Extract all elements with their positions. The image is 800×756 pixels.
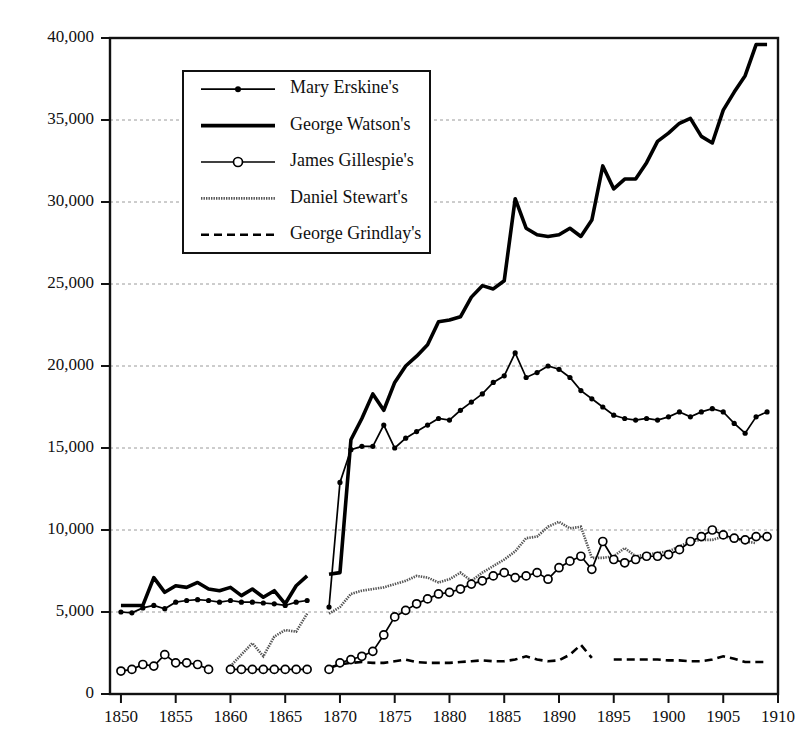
data-point [730, 534, 738, 542]
data-point [172, 659, 180, 667]
x-tick-label: 1880 [432, 707, 466, 726]
series-line [329, 353, 767, 607]
series-line [121, 600, 307, 613]
data-point [534, 370, 539, 375]
x-tick-label: 1875 [378, 707, 412, 726]
x-tick-label: 1895 [597, 707, 631, 726]
data-point [599, 537, 607, 545]
data-point [380, 631, 388, 639]
data-point [414, 429, 419, 434]
data-point [764, 409, 769, 414]
data-point [555, 564, 563, 572]
data-point [467, 580, 475, 588]
data-point [305, 598, 310, 603]
data-point [381, 422, 386, 427]
data-point [699, 409, 704, 414]
data-point [205, 665, 213, 673]
data-point [173, 600, 178, 605]
chart-legend: Mary Erskine'sGeorge Watson'sJames Gille… [183, 71, 430, 253]
data-point [436, 416, 441, 421]
data-point [611, 413, 616, 418]
data-point [358, 652, 366, 660]
data-point [250, 600, 255, 605]
data-point [270, 665, 278, 673]
series-daniel-stewart-s [230, 522, 756, 666]
x-tick-label: 1865 [268, 707, 302, 726]
data-point [228, 598, 233, 603]
data-point [425, 422, 430, 427]
data-point [721, 409, 726, 414]
data-point [391, 613, 399, 621]
data-point [666, 414, 671, 419]
data-point [753, 414, 758, 419]
y-tick-label: 25,000 [47, 273, 94, 292]
series-george-grindlay-s [329, 645, 767, 668]
y-axis-ticks [101, 38, 110, 694]
data-point [292, 665, 300, 673]
data-point [763, 533, 771, 541]
data-point [226, 665, 234, 673]
data-point [139, 660, 147, 668]
data-point [478, 577, 486, 585]
y-tick-label: 35,000 [47, 109, 94, 128]
data-point [336, 659, 344, 667]
data-point [456, 585, 464, 593]
data-point [259, 665, 267, 673]
data-point [261, 600, 266, 605]
data-point [610, 556, 618, 564]
data-point [589, 396, 594, 401]
data-point [370, 444, 375, 449]
data-point [588, 565, 596, 573]
x-tick-label: 1855 [159, 707, 193, 726]
x-tick-label: 1890 [542, 707, 576, 726]
data-point [622, 416, 627, 421]
data-point [632, 556, 640, 564]
data-point [489, 572, 497, 580]
data-point [183, 659, 191, 667]
data-point [458, 408, 463, 413]
legend-label: James Gillespie's [290, 150, 414, 170]
data-point [402, 606, 410, 614]
data-point [686, 537, 694, 545]
x-tick-label: 1850 [104, 707, 138, 726]
series-mary-erskine-s [118, 350, 769, 615]
data-point [217, 600, 222, 605]
data-point [118, 609, 123, 614]
data-point [710, 406, 715, 411]
data-point [556, 367, 561, 372]
data-point [675, 546, 683, 554]
data-point [732, 421, 737, 426]
data-point [644, 416, 649, 421]
x-tick-label: 1870 [323, 707, 357, 726]
data-point [369, 647, 377, 655]
x-axis-tick-labels: 1850185518601865187018751880188518901895… [104, 707, 795, 726]
data-point [577, 552, 585, 560]
data-point [128, 665, 136, 673]
data-point [522, 572, 530, 580]
data-point [502, 373, 507, 378]
x-axis-ticks [121, 694, 778, 703]
x-tick-label: 1905 [706, 707, 740, 726]
series-line [614, 656, 767, 662]
data-point [545, 363, 550, 368]
legend-label: Mary Erskine's [290, 77, 399, 97]
x-tick-label: 1900 [651, 707, 685, 726]
y-tick-label: 15,000 [47, 437, 94, 456]
legend-label: George Grindlay's [290, 223, 421, 243]
data-point [359, 444, 364, 449]
data-point [161, 651, 169, 659]
data-point [654, 552, 662, 560]
data-point [697, 533, 705, 541]
data-point [248, 665, 256, 673]
y-tick-label: 30,000 [47, 191, 94, 210]
x-tick-label: 1860 [213, 707, 247, 726]
data-point [480, 391, 485, 396]
data-point [643, 552, 651, 560]
data-point [491, 380, 496, 385]
y-tick-label: 5,000 [56, 601, 94, 620]
data-point [600, 404, 605, 409]
x-tick-label: 1910 [761, 707, 795, 726]
data-point [469, 399, 474, 404]
data-point [129, 610, 134, 615]
y-tick-label: 0 [86, 683, 95, 702]
